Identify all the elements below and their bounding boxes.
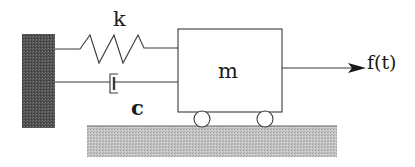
force-arrow: [282, 63, 366, 73]
force-label: f(t): [367, 53, 397, 72]
wheel-right: [257, 111, 273, 127]
spring: [55, 35, 178, 63]
damper-label: c: [131, 97, 144, 118]
ground: [87, 126, 337, 157]
diagram-canvas: [0, 0, 415, 167]
wheel-left: [194, 111, 210, 127]
spring-label: k: [113, 9, 126, 30]
mass-label: m: [218, 61, 238, 82]
wall: [22, 34, 55, 128]
damper: [55, 74, 178, 93]
